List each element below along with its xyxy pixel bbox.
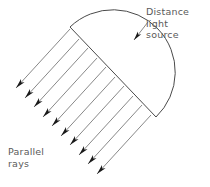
figure-container: Distance light source Parallel rays [0,0,210,187]
rays-label-line-2: rays [8,158,44,170]
source-label-line-2: light [146,18,189,30]
rays-label-line-1: Parallel [8,146,44,158]
ray-7 [70,86,124,145]
ray-8 [79,96,133,155]
ray-3 [34,48,88,107]
ray-6 [61,77,115,136]
parallel-rays-label: Parallel rays [8,146,44,169]
distance-light-source-label: Distance light source [146,6,189,41]
source-label-line-1: Distance [146,6,189,18]
ray-5 [52,67,106,126]
dome-chord-line [70,27,156,117]
ray-10 [97,115,151,174]
ray-4 [43,58,97,117]
ray-1 [16,29,70,88]
ray-9 [88,105,142,164]
source-label-line-3: source [146,29,189,41]
ray-2 [25,39,79,98]
